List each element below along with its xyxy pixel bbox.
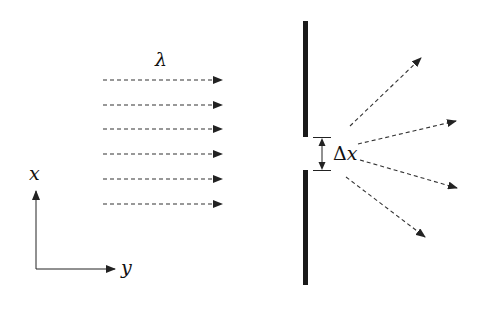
diffracted-ray [346, 177, 425, 237]
x-axis-label: x [29, 164, 40, 183]
wavelength-label: λ [155, 50, 167, 69]
diffracted-ray [360, 160, 457, 188]
barrier-top [303, 21, 308, 137]
slit-width-label: Δx [333, 144, 357, 163]
diffracted-rays [346, 58, 457, 237]
y-axis-label: y [121, 258, 132, 277]
diagram-canvas [0, 0, 485, 309]
incident-rays [103, 80, 222, 204]
slit-width-dimension [313, 138, 331, 171]
delta-symbol: Δ [333, 142, 347, 164]
diffracted-ray [358, 121, 456, 144]
coordinate-axes [36, 191, 115, 269]
x-variable: x [347, 142, 358, 164]
diffraction-diagram: λ Δx x y [0, 0, 485, 309]
barrier-bottom [303, 170, 308, 285]
diffracted-ray [350, 58, 421, 126]
